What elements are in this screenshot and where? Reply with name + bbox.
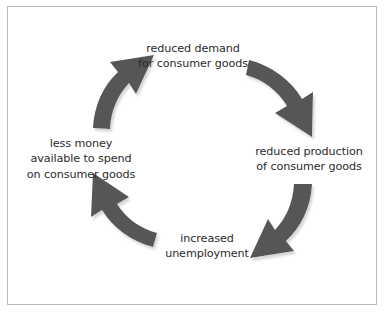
cycle-stage: reduced demand for consumer goods reduce… — [0, 0, 386, 314]
node-label-reduced-demand: reduced demand for consumer goods — [123, 41, 263, 72]
arrow-unemployment-to-less-money-icon — [91, 173, 157, 247]
node-label-less-money: less money available to spend on consume… — [18, 136, 144, 182]
node-label-reduced-production: reduced production of consumer goods — [243, 144, 375, 175]
node-label-increased-unemployment: increased unemployment — [152, 231, 262, 262]
cycle-diagram: reduced demand for consumer goods reduce… — [0, 0, 386, 314]
